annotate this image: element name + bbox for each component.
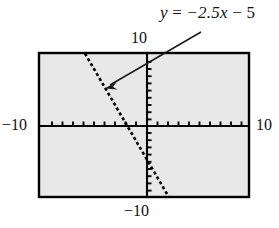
equation-label: y = −2.5x − 5 [160,4,255,21]
equation-slope-term: −2.5x [186,3,227,22]
equation-intercept: 5 [246,3,255,22]
equation-minus-sign: − [232,3,242,22]
axis-label-top: 10 [131,30,147,46]
equation-lhs: y [160,3,168,22]
equation-equals: = [172,3,182,22]
axis-label-bottom: −10 [124,203,149,219]
axis-label-right: 10 [256,117,272,133]
graph-figure: y = −2.5x − 5 10 −10 10 −10 [0,0,279,228]
axis-label-left: −10 [2,117,27,133]
